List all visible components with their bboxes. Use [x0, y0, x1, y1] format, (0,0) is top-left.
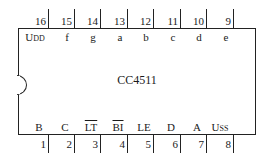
pin-number: 5 — [137, 139, 151, 150]
pin-number: 3 — [84, 139, 98, 150]
pin-line-bottom — [153, 135, 154, 153]
pin-line-bottom — [74, 135, 75, 153]
pin-number: 7 — [190, 139, 204, 150]
pin-line-bottom — [48, 135, 49, 153]
pin-line-bottom — [206, 135, 207, 153]
pin-signal-label: USS — [205, 122, 235, 134]
pin-line-bottom — [180, 135, 181, 153]
pin-line-top — [180, 9, 181, 28]
pin-line-top — [233, 9, 234, 28]
pin-line-bottom — [127, 135, 128, 153]
pin-signal-label: LT — [76, 122, 106, 133]
pin-signal-label: d — [184, 32, 214, 43]
pin-number: 12 — [137, 16, 151, 27]
pin-line-top — [100, 9, 101, 28]
pin-number: 8 — [217, 139, 231, 150]
pin-number: 14 — [84, 16, 98, 27]
pin-number: 1 — [32, 139, 46, 150]
pin-number: 9 — [217, 16, 231, 27]
pin-line-top — [48, 9, 49, 28]
pin-line-bottom — [100, 135, 101, 153]
pin-number: 15 — [58, 16, 72, 27]
pin-line-top — [74, 9, 75, 28]
pin-signal-label: g — [78, 32, 108, 43]
pin-number: 16 — [32, 16, 46, 27]
chip-name: CC4511 — [0, 73, 274, 88]
pin-line-top — [127, 9, 128, 28]
pin-signal-label: b — [131, 32, 161, 43]
pin-number: 6 — [164, 139, 178, 150]
pin-line-bottom — [233, 135, 234, 153]
pin-signal-label: LE — [129, 122, 159, 133]
pin-signal-label: UDD — [20, 32, 50, 44]
pin-line-top — [206, 9, 207, 28]
pin-number: 2 — [58, 139, 72, 150]
pin-number: 4 — [111, 139, 125, 150]
pin-line-top — [153, 9, 154, 28]
pin-number: 11 — [164, 16, 178, 27]
pin-number: 10 — [190, 16, 204, 27]
pin-signal-label: e — [211, 32, 241, 43]
pin-number: 13 — [111, 16, 125, 27]
